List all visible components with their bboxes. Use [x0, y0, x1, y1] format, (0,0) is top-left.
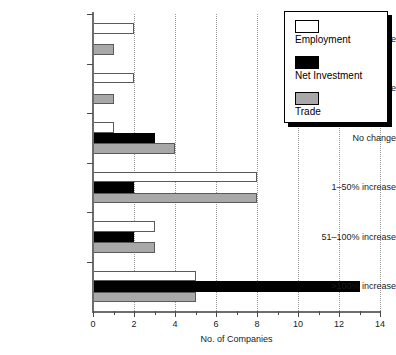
x-tick-minor-9: [278, 311, 279, 315]
bar-employment-0: [93, 23, 134, 34]
legend-label-trade: Trade: [295, 106, 321, 117]
x-tick-6: [216, 311, 217, 317]
legend-label-net-investment: Net Investment: [295, 70, 362, 81]
x-tick-label-10: 10: [293, 319, 303, 329]
legend-label-employment: Employment: [295, 34, 351, 45]
x-tick-minor-11: [319, 311, 320, 315]
bar-trade-1: [93, 94, 114, 105]
y-tick-1: [87, 64, 93, 65]
bar-employment-3: [93, 172, 257, 183]
y-category-label-2: No change: [311, 133, 396, 143]
bar-trade-4: [93, 242, 155, 253]
x-tick-minor-7: [237, 311, 238, 315]
x-tick-minor-3: [155, 311, 156, 315]
y-tick-0: [87, 14, 93, 15]
y-tick-3: [87, 163, 93, 164]
gridline-6: [216, 14, 218, 311]
bar-trade-5: [93, 292, 196, 303]
bar-netinv-3: [93, 182, 134, 193]
legend-box: Employment Net Investment Trade: [284, 11, 388, 123]
x-tick-10: [298, 311, 299, 317]
bar-trade-2: [93, 143, 175, 154]
y-category-label-3: 1–50% increase: [311, 182, 396, 192]
legend-entry-net-investment: Net Investment: [295, 56, 362, 81]
bar-netinv-2: [93, 133, 155, 144]
y-category-label-5: >100% increase: [311, 281, 396, 291]
bar-trade-3: [93, 193, 257, 204]
x-tick-minor-13: [360, 311, 361, 315]
bar-employment-1: [93, 73, 134, 84]
x-tick-label-12: 12: [334, 319, 344, 329]
x-tick-label-6: 6: [213, 319, 218, 329]
y-tick-5: [87, 262, 93, 263]
legend-swatch-trade-icon: [295, 92, 319, 105]
legend-swatch-employment-icon: [295, 20, 319, 33]
x-tick-2: [134, 311, 135, 317]
legend-swatch-net-investment-icon: [295, 56, 319, 69]
x-tick-4: [175, 311, 176, 317]
y-category-label-4: 51–100% increase: [311, 232, 396, 242]
bar-employment-4: [93, 221, 155, 232]
bar-netinv-4: [93, 232, 134, 243]
x-axis-title: No. of Companies: [93, 334, 380, 344]
x-tick-minor-5: [196, 311, 197, 315]
x-tick-0: [93, 311, 94, 317]
bar-trade-0: [93, 44, 114, 55]
x-tick-minor-1: [114, 311, 115, 315]
bar-employment-5: [93, 271, 196, 282]
x-tick-12: [339, 311, 340, 317]
x-tick-label-4: 4: [172, 319, 177, 329]
x-tick-label-14: 14: [375, 319, 385, 329]
x-tick-14: [380, 311, 381, 317]
y-tick-4: [87, 212, 93, 213]
bar-chart: 02468101214 51–100% decrease1–50% decrea…: [0, 0, 396, 355]
x-tick-label-8: 8: [254, 319, 259, 329]
gridline-4: [175, 14, 177, 311]
x-tick-label-2: 2: [131, 319, 136, 329]
gridline-2: [134, 14, 136, 311]
legend-entry-employment: Employment: [295, 20, 351, 45]
gridline-8: [257, 14, 259, 311]
y-tick-2: [87, 113, 93, 114]
legend-entry-trade: Trade: [295, 92, 321, 117]
x-tick-label-0: 0: [90, 319, 95, 329]
bar-employment-2: [93, 122, 114, 133]
x-tick-8: [257, 311, 258, 317]
